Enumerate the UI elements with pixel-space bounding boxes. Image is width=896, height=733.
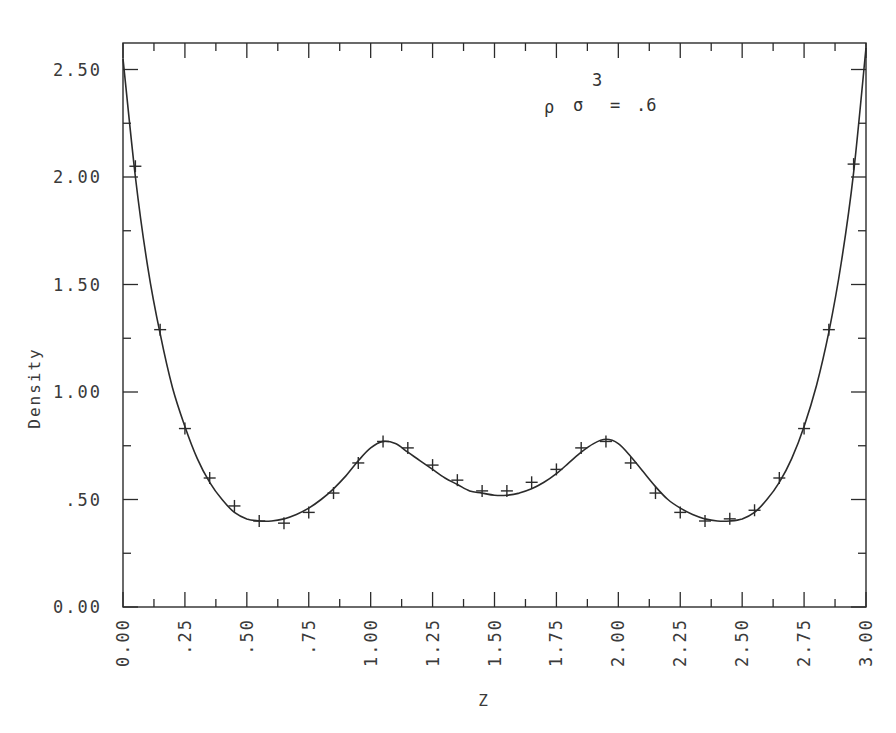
x-tick-label: 1.25 <box>423 618 443 667</box>
x-tick-label: .50 <box>237 618 257 655</box>
y-axis-ticks <box>123 70 866 608</box>
plus-marker <box>179 423 191 435</box>
plus-marker <box>451 474 463 486</box>
y-tick-label: .50 <box>65 490 102 510</box>
plus-marker <box>823 324 835 336</box>
plus-marker <box>253 515 265 527</box>
x-tick-label: 2.00 <box>608 618 628 667</box>
plus-marker <box>402 442 414 454</box>
y-axis-title: Density <box>25 347 44 428</box>
x-tick-label: 2.75 <box>794 618 814 667</box>
x-tick-label: 2.25 <box>670 618 690 667</box>
plus-marker <box>129 160 141 172</box>
x-axis-tick-labels: 0.00.25.50.751.001.251.501.752.002.252.5… <box>113 618 876 667</box>
plus-marker <box>228 500 240 512</box>
plus-marker <box>278 517 290 529</box>
plot-border <box>123 43 866 607</box>
y-tick-label: 2.50 <box>53 60 102 80</box>
annotation-value: .6 <box>636 95 656 115</box>
density-annotation: 3 ρ σ = .6 <box>544 70 656 117</box>
annotation-equals: = <box>610 95 620 115</box>
plus-marker <box>328 487 340 499</box>
annotation-exponent: 3 <box>592 70 602 90</box>
plus-marker <box>600 435 612 447</box>
plus-marker <box>674 506 686 518</box>
y-tick-label: 0.00 <box>53 597 102 617</box>
plus-marker <box>427 459 439 471</box>
annotation-rho: ρ <box>544 97 554 117</box>
plus-marker <box>724 513 736 525</box>
x-tick-label: .25 <box>175 618 195 655</box>
plus-marker <box>476 485 488 497</box>
theory-curve <box>123 48 866 521</box>
y-tick-label: 1.50 <box>53 275 102 295</box>
x-tick-label: .75 <box>299 618 319 655</box>
x-tick-label: 1.50 <box>485 618 505 667</box>
density-profile-chart: 0.00.501.001.502.002.50 0.00.25.50.751.0… <box>0 0 896 733</box>
plus-marker <box>154 324 166 336</box>
plus-marker <box>848 158 860 170</box>
plus-marker <box>649 487 661 499</box>
plus-marker <box>575 442 587 454</box>
plus-marker <box>798 423 810 435</box>
plus-marker <box>550 463 562 475</box>
x-axis-title: Z <box>478 691 490 710</box>
simulation-markers <box>129 158 859 529</box>
annotation-sigma: σ <box>573 95 583 115</box>
plus-marker <box>625 457 637 469</box>
x-tick-label: 1.75 <box>546 618 566 667</box>
y-axis-tick-labels: 0.00.501.001.502.002.50 <box>53 60 102 618</box>
x-tick-label: 2.50 <box>732 618 752 667</box>
y-tick-label: 1.00 <box>53 382 102 402</box>
x-tick-label: 1.00 <box>361 618 381 667</box>
x-tick-label: 0.00 <box>113 618 133 667</box>
plot-frame <box>123 43 866 607</box>
x-tick-label: 3.00 <box>856 618 876 667</box>
plus-marker <box>377 435 389 447</box>
y-tick-label: 2.00 <box>53 167 102 187</box>
x-axis-ticks <box>123 43 866 607</box>
plus-marker <box>303 506 315 518</box>
